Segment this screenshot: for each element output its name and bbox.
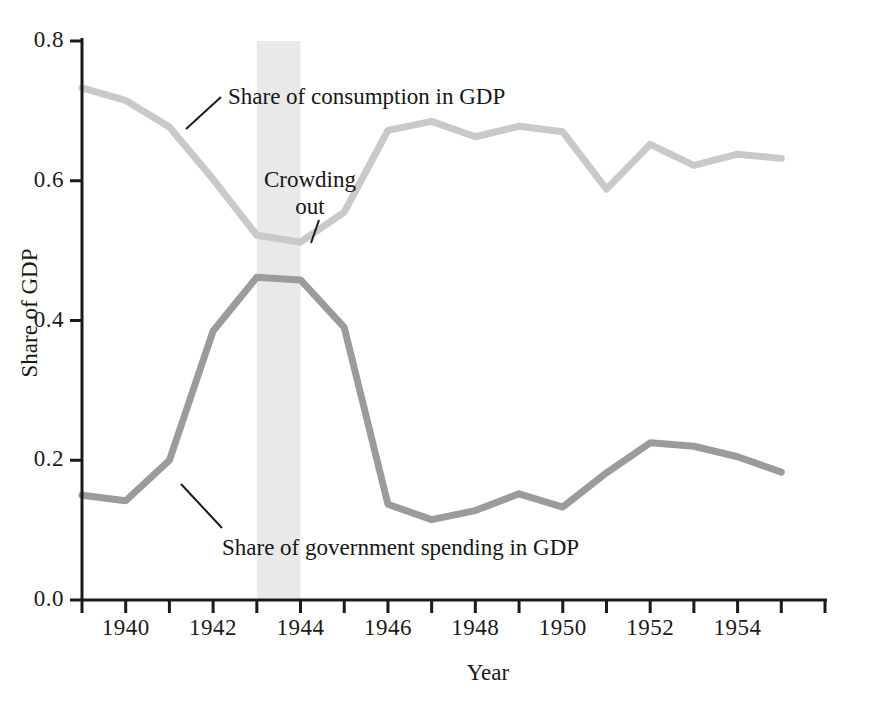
crowding-out-band (257, 41, 301, 600)
y-tick-label-1: 0.6 (8, 167, 64, 193)
y-axis-ticks (70, 41, 82, 600)
x-tick-label-1946: 1946 (348, 615, 428, 641)
leader-line-government (181, 484, 222, 528)
x-axis-title: Year (388, 660, 588, 686)
annotation-consumption: Share of consumption in GDP (228, 84, 505, 110)
annotation-crowding-out-line2: out (250, 194, 370, 220)
x-tick-label-1952: 1952 (610, 615, 690, 641)
x-tick-label-1948: 1948 (435, 615, 515, 641)
leader-line-consumption (186, 97, 221, 129)
x-tick-label-1942: 1942 (173, 615, 253, 641)
line-series-government (82, 277, 781, 519)
y-tick-label-0: 0.8 (8, 27, 64, 53)
line-series-consumption (82, 88, 781, 242)
x-axis-ticks (82, 600, 825, 613)
x-tick-label-1954: 1954 (698, 615, 778, 641)
annotation-crowding-out-line1: Crowding (250, 167, 370, 193)
y-tick-label-4: 0.0 (8, 586, 64, 612)
x-tick-label-1940: 1940 (86, 615, 166, 641)
y-tick-label-3: 0.2 (8, 446, 64, 472)
annotation-government: Share of government spending in GDP (222, 535, 579, 561)
y-axis-title: Share of GDP (17, 213, 43, 413)
x-tick-label-1950: 1950 (523, 615, 603, 641)
chart-figure: 0.8 0.6 0.4 0.2 0.0 Share of GDP 1940 19… (0, 0, 876, 710)
x-tick-label-1944: 1944 (261, 615, 341, 641)
